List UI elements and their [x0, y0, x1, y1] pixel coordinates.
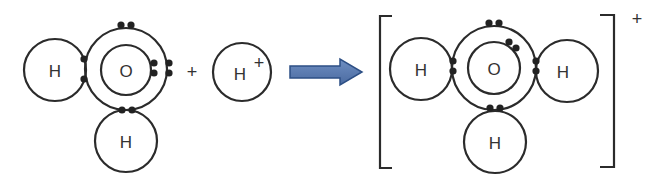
hydrogen-bottom-label: H — [489, 134, 501, 153]
oxygen-label: O — [487, 60, 500, 79]
hydronium-formation-diagram: H O H + H + + H — [0, 0, 664, 179]
left-bracket — [380, 16, 392, 168]
reaction-arrow-icon — [290, 59, 362, 85]
hydrogen-left-label: H — [49, 62, 61, 81]
ion-charge: + — [632, 9, 643, 29]
water-molecule: H O H — [24, 21, 173, 172]
proton: H + — [213, 43, 271, 101]
hydronium-ion: + H O H H — [380, 9, 642, 173]
hydrogen-left-label: H — [415, 61, 427, 80]
plus-sign: + — [187, 62, 198, 82]
hydrogen-right-label: H — [557, 63, 569, 82]
right-bracket — [600, 15, 614, 167]
oxygen-label: O — [119, 62, 132, 81]
hydrogen-bottom-label: H — [120, 133, 132, 152]
proton-charge: + — [254, 53, 265, 73]
proton-label: H — [234, 65, 246, 84]
